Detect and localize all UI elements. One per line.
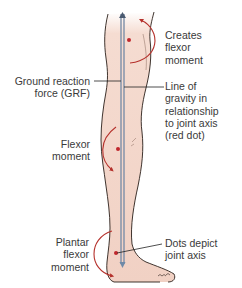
label-dots-depict-joint-axis: Dots depict joint axis — [165, 237, 218, 262]
label-ground-reaction-force: Ground reaction force (GRF) — [15, 75, 90, 100]
label-plantar-flexor-moment: Plantar flexor moment — [51, 236, 89, 273]
knee-joint-dot — [116, 147, 120, 151]
leg-silhouette — [101, 12, 175, 282]
label-flexor-moment: Flexor moment — [52, 138, 90, 163]
label-line-of-gravity: Line of gravity in relationship to joint… — [165, 80, 219, 141]
label-creates-flexor-moment: Creates flexor moment — [165, 29, 203, 66]
hip-joint-dot — [127, 38, 131, 42]
